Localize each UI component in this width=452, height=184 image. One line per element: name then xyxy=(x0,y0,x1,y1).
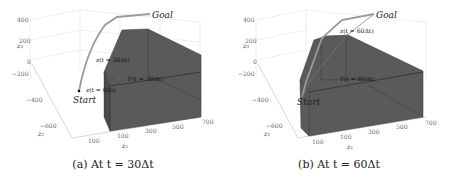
z-tick: 400 xyxy=(243,16,255,23)
z-current-label: z(t = 30Δt) xyxy=(96,56,129,63)
x-tick: 500 xyxy=(172,123,184,130)
x-tick: 700 xyxy=(202,118,214,125)
start-marker xyxy=(78,90,81,93)
start-label: Start xyxy=(297,97,320,107)
z3-label: z₃ xyxy=(242,42,249,50)
x-tick: 300 xyxy=(368,128,380,135)
z2-label: z₂ xyxy=(37,130,44,138)
x-tick: 300 xyxy=(145,127,157,134)
z-start-label: z(t = 0Δt) xyxy=(86,86,116,93)
z-tick: −200 xyxy=(238,70,255,77)
z2-label: z₂ xyxy=(263,130,270,138)
z-tick: −400 xyxy=(252,96,269,103)
z-tick: −400 xyxy=(26,96,43,103)
x-tick: 700 xyxy=(425,119,437,126)
F-label: F(t = 60Δt) xyxy=(340,75,374,82)
z3-label: z₃ xyxy=(16,42,23,50)
F-label: F(t = 30Δt) xyxy=(128,75,162,82)
x-tick: 100 xyxy=(117,132,129,139)
z-current-label: z(t = 60Δt) xyxy=(340,27,373,34)
x-tick: 100 xyxy=(340,133,352,140)
panel-a: Goal Start z(t = 30Δt) z(t = 0Δt) F(t = … xyxy=(0,0,226,184)
y-tick: −600 xyxy=(40,122,57,129)
y-tick: −600 xyxy=(266,122,283,129)
x-tick: 500 xyxy=(396,123,408,130)
start-label: Start xyxy=(73,95,96,105)
caption-a: (a) At t = 30Δt xyxy=(0,158,226,171)
y-tick: 100 xyxy=(312,138,324,145)
z1-label: z₁ xyxy=(346,143,353,151)
y-tick: 100 xyxy=(88,137,100,144)
panel-b: Goal Start z(t = 60Δt) F(t = 60Δt) 400 2… xyxy=(226,0,452,184)
caption-b: (b) At t = 60Δt xyxy=(226,158,452,171)
z-tick: 400 xyxy=(17,16,29,23)
goal-label: Goal xyxy=(376,10,397,20)
plot-b: Goal Start z(t = 60Δt) F(t = 60Δt) 400 2… xyxy=(226,0,452,184)
z-tick: 0 xyxy=(27,58,31,65)
plot-a: Goal Start z(t = 30Δt) z(t = 0Δt) F(t = … xyxy=(0,0,226,184)
z-tick: −200 xyxy=(12,70,29,77)
goal-label: Goal xyxy=(152,10,173,20)
z-tick: 0 xyxy=(253,58,257,65)
z1-label: z₁ xyxy=(121,142,128,150)
